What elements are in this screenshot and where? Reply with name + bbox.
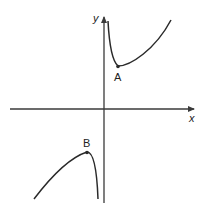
y-axis-label: y <box>92 12 100 24</box>
point-b-label: B <box>83 137 90 149</box>
point-b-marker <box>85 151 89 155</box>
curve-lower-branch <box>34 152 98 199</box>
x-axis-label: x <box>188 112 195 124</box>
graph-canvas: y x A B <box>0 0 209 218</box>
point-a-marker <box>116 65 120 69</box>
curve-upper-branch <box>108 20 171 66</box>
point-a-label: A <box>114 71 122 83</box>
